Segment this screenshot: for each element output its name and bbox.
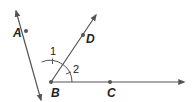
ray-ba (16, 11, 41, 100)
label-b: B (51, 86, 60, 100)
label-c: C (107, 86, 116, 100)
label-d: D (86, 32, 95, 46)
label-angle-1: 1 (50, 45, 56, 57)
point-d (81, 33, 85, 37)
point-b (49, 80, 53, 84)
label-angle-2: 2 (73, 63, 79, 75)
angle-diagram: A D B C 1 2 (0, 0, 192, 102)
label-a: A (12, 26, 22, 40)
point-a (24, 29, 28, 33)
point-c (108, 80, 112, 84)
